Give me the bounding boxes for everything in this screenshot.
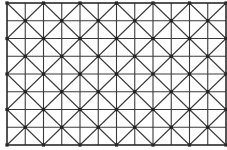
grid-lattice-diagram: [0, 0, 227, 150]
